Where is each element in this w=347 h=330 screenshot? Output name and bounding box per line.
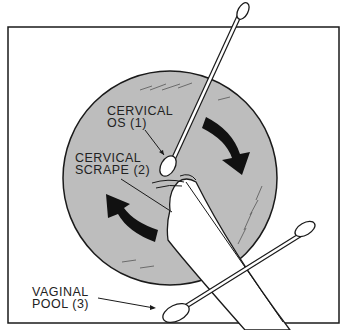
label-cervical-os: CERVICAL OS (1) [107,105,173,129]
diagram-canvas [0,0,347,330]
label-os-line2: OS (1) [107,117,173,129]
label-cervical-scrape: CERVICAL SCRAPE (2) [75,152,150,176]
label-vaginal-pool: VAGINAL POOL (3) [32,286,89,310]
arrowhead-pool [150,305,156,310]
cervical-sampling-diagram: CERVICAL OS (1) CERVICAL SCRAPE (2) VAGI… [0,0,347,330]
label-pool-line2: POOL (3) [32,298,89,310]
label-scrape-line2: SCRAPE (2) [75,164,150,176]
